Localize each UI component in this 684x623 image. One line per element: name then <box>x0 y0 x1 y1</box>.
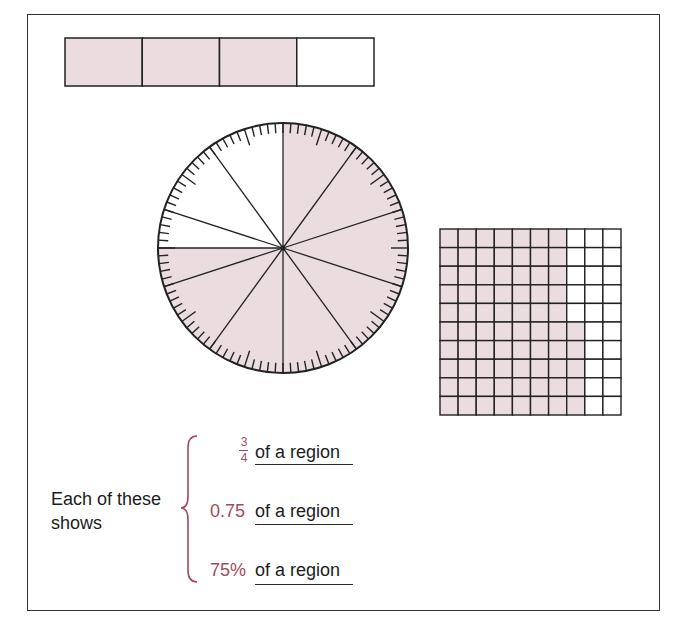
grid-cell-shaded <box>458 266 476 285</box>
grid-cell-shaded <box>512 341 530 360</box>
circle-tick <box>275 123 276 133</box>
grid-cell-shaded <box>440 396 458 415</box>
grid-cell-unshaded <box>585 229 603 248</box>
grid-cell-shaded <box>476 378 494 397</box>
grid-cell-shaded <box>549 266 567 285</box>
grid-cell-shaded <box>494 229 512 248</box>
grid-cell-unshaded <box>603 396 621 415</box>
grid-cell-shaded <box>512 285 530 304</box>
hundred-grid-model <box>440 229 621 415</box>
grid-cell-shaded <box>531 322 549 341</box>
grid-cell-shaded <box>494 359 512 378</box>
grid-cell-shaded <box>458 341 476 360</box>
grid-cell-shaded <box>531 248 549 267</box>
grid-cell-shaded <box>512 322 530 341</box>
grid-cell-shaded <box>549 378 567 397</box>
grid-cell-shaded <box>512 248 530 267</box>
grid-cell-shaded <box>512 229 530 248</box>
answer-underline <box>255 584 353 585</box>
grid-cell-shaded <box>440 359 458 378</box>
grid-cell-unshaded <box>603 229 621 248</box>
grid-cell-unshaded <box>585 359 603 378</box>
circle-tick <box>398 240 408 241</box>
grid-cell-shaded <box>549 341 567 360</box>
fraction-numerator: 3 <box>239 436 249 448</box>
grid-cell-unshaded <box>603 322 621 341</box>
grid-cell-shaded <box>458 303 476 322</box>
grid-cell-unshaded <box>585 303 603 322</box>
grid-cell-shaded <box>531 303 549 322</box>
grid-cell-shaded <box>440 341 458 360</box>
curly-brace <box>181 436 197 582</box>
grid-cell-unshaded <box>567 229 585 248</box>
grid-cell-unshaded <box>603 378 621 397</box>
bar-part-shaded <box>220 38 297 86</box>
item-label: of a region <box>255 443 340 461</box>
grid-cell-shaded <box>512 378 530 397</box>
grid-cell-shaded <box>458 248 476 267</box>
grid-cell-unshaded <box>603 285 621 304</box>
grid-cell-shaded <box>476 322 494 341</box>
grid-cell-shaded <box>494 396 512 415</box>
grid-cell-shaded <box>494 266 512 285</box>
grid-cell-shaded <box>567 359 585 378</box>
grid-cell-shaded <box>476 359 494 378</box>
percent-value: 75% <box>210 561 246 579</box>
grid-cell-shaded <box>549 303 567 322</box>
grid-cell-shaded <box>440 229 458 248</box>
grid-cell-shaded <box>531 285 549 304</box>
grid-cell-shaded <box>458 322 476 341</box>
grid-cell-shaded <box>549 248 567 267</box>
grid-cell-shaded <box>494 248 512 267</box>
grid-cell-unshaded <box>603 303 621 322</box>
grid-cell-shaded <box>531 396 549 415</box>
grid-cell-shaded <box>549 229 567 248</box>
grid-cell-shaded <box>531 378 549 397</box>
grid-cell-shaded <box>440 285 458 304</box>
grid-cell-shaded <box>512 359 530 378</box>
grid-cell-shaded <box>476 229 494 248</box>
grid-cell-unshaded <box>567 303 585 322</box>
grid-cell-shaded <box>567 396 585 415</box>
grid-cell-shaded <box>567 322 585 341</box>
grid-cell-shaded <box>567 378 585 397</box>
grid-cell-shaded <box>476 285 494 304</box>
grid-cell-unshaded <box>603 341 621 360</box>
caption-lead-line2: shows <box>51 514 102 532</box>
answer-underline <box>255 524 353 525</box>
grid-cell-shaded <box>476 248 494 267</box>
grid-cell-shaded <box>476 341 494 360</box>
bar-part-shaded <box>65 38 142 86</box>
bar-part-shaded <box>142 38 219 86</box>
grid-cell-unshaded <box>585 322 603 341</box>
grid-cell-shaded <box>494 322 512 341</box>
grid-cell-shaded <box>440 303 458 322</box>
grid-cell-unshaded <box>603 248 621 267</box>
grid-cell-shaded <box>512 303 530 322</box>
bar-part-unshaded <box>297 38 374 86</box>
answer-underline <box>255 464 353 465</box>
grid-cell-shaded <box>494 285 512 304</box>
grid-cell-shaded <box>549 396 567 415</box>
grid-cell-unshaded <box>585 248 603 267</box>
grid-cell-shaded <box>458 359 476 378</box>
circle-center-dot <box>281 246 286 251</box>
grid-cell-shaded <box>440 378 458 397</box>
grid-cell-shaded <box>531 341 549 360</box>
grid-cell-unshaded <box>567 266 585 285</box>
grid-cell-shaded <box>531 229 549 248</box>
grid-cell-unshaded <box>585 378 603 397</box>
grid-cell-shaded <box>458 285 476 304</box>
fraction-denominator: 4 <box>239 452 249 464</box>
grid-cell-shaded <box>512 396 530 415</box>
grid-cell-shaded <box>531 266 549 285</box>
grid-cell-unshaded <box>585 341 603 360</box>
circle-model <box>158 123 408 373</box>
grid-cell-unshaded <box>603 359 621 378</box>
decimal-value: 0.75 <box>210 502 245 520</box>
grid-cell-unshaded <box>585 266 603 285</box>
grid-cell-shaded <box>440 266 458 285</box>
grid-cell-shaded <box>549 285 567 304</box>
grid-cell-shaded <box>567 341 585 360</box>
grid-cell-unshaded <box>585 396 603 415</box>
